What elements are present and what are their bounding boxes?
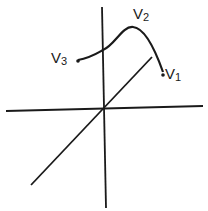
diagonal-axis [31, 57, 152, 185]
label-v2: V2 [133, 5, 149, 23]
curve [78, 27, 163, 72]
point-v3 [76, 59, 80, 63]
diagram-canvas: V3 V2 V1 [0, 0, 208, 211]
label-v3: V3 [51, 49, 67, 67]
label-v1: V1 [165, 65, 181, 83]
